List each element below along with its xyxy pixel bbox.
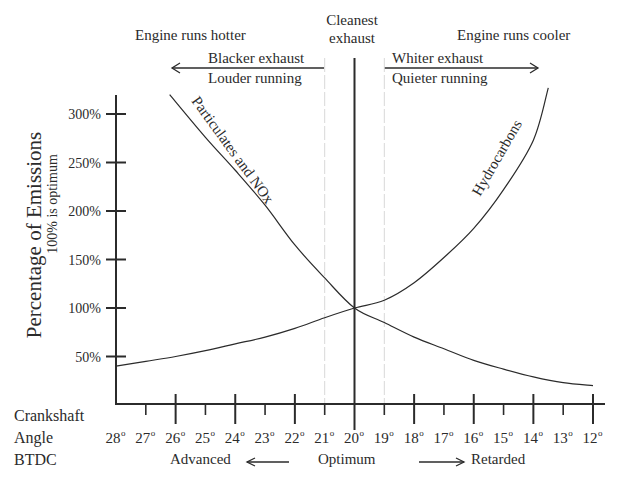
- x-tick-label: 21: [314, 430, 329, 446]
- x-tick-label: 20: [344, 430, 359, 446]
- annotation-louder-running: Louder running: [208, 70, 302, 86]
- x-tick-label: 25: [195, 430, 210, 446]
- x-tick-label: 19: [374, 430, 389, 446]
- x-tick-label: 17: [433, 430, 449, 446]
- annotation-optimum: Optimum: [318, 451, 376, 467]
- x-tick-degree: o: [270, 428, 275, 438]
- series-label-particulates-nox: Particulates and NOx: [189, 93, 278, 207]
- y-axis-label: Percentage of Emissions: [22, 132, 46, 338]
- x-tick-label: 23: [255, 430, 270, 446]
- x-tick-label: 16: [463, 430, 479, 446]
- series-line-hydrocarbons: [116, 88, 548, 366]
- x-tick-degree: o: [598, 428, 603, 438]
- emissions-chart: Engine runs hotter Cleanest exhaust Engi…: [0, 0, 625, 495]
- y-tick-label: 250%: [68, 156, 101, 171]
- x-tick-degree: o: [389, 428, 394, 438]
- y-tick-label: 300%: [68, 107, 101, 122]
- x-tick-degree: o: [509, 428, 514, 438]
- x-axis-label-btdc: BTDC: [14, 451, 57, 468]
- annotation-whiter-exhaust: Whiter exhaust: [392, 50, 484, 66]
- annotation-cleanest-line1: Cleanest: [326, 12, 378, 28]
- annotation-engine-hotter: Engine runs hotter: [135, 27, 246, 43]
- x-tick-degree: o: [568, 428, 573, 438]
- x-tick-degree: o: [479, 428, 484, 438]
- x-tick-label: 28: [106, 430, 121, 446]
- x-tick-degree: o: [151, 428, 156, 438]
- annotation-blacker-exhaust: Blacker exhaust: [208, 50, 305, 66]
- x-tick-label: 12: [583, 430, 598, 446]
- annotation-engine-cooler: Engine runs cooler: [457, 27, 570, 43]
- x-tick-degree: o: [419, 428, 424, 438]
- x-tick-degree: o: [538, 428, 543, 438]
- x-tick-degree: o: [210, 428, 215, 438]
- annotation-cleanest-line2: exhaust: [329, 30, 376, 46]
- x-tick-degree: o: [300, 428, 305, 438]
- annotation-advanced: Advanced: [170, 451, 231, 467]
- x-axis-label-angle: Angle: [14, 429, 53, 447]
- x-tick-degree: o: [360, 428, 365, 438]
- x-tick-degree: o: [330, 428, 335, 438]
- x-tick-degree: o: [240, 428, 245, 438]
- x-tick-label: 26: [165, 430, 181, 446]
- y-tick-label: 50%: [75, 350, 101, 365]
- x-tick-label: 14: [523, 430, 539, 446]
- x-tick-label: 27: [135, 430, 151, 446]
- x-axis-label-crankshaft: Crankshaft: [14, 407, 85, 424]
- annotation-quieter-running: Quieter running: [392, 70, 488, 86]
- x-tick-degree: o: [121, 428, 126, 438]
- y-tick-label: 200%: [68, 204, 101, 219]
- y-tick-label: 100%: [68, 301, 101, 316]
- x-tick-degree: o: [181, 428, 186, 438]
- advanced-arrow: [247, 458, 289, 466]
- series-label-hydrocarbons: Hydrocarbons: [469, 117, 525, 199]
- y-axis-sublabel: 100% is optimum: [45, 154, 60, 254]
- retarded-arrow: [419, 458, 464, 466]
- x-tick-label: 15: [493, 430, 508, 446]
- x-tick-degree: o: [449, 428, 454, 438]
- y-tick-label: 150%: [68, 253, 101, 268]
- annotation-retarded: Retarded: [471, 451, 526, 467]
- x-tick-label: 24: [225, 430, 241, 446]
- x-tick-label: 13: [553, 430, 568, 446]
- x-tick-label: 22: [284, 430, 299, 446]
- x-tick-label: 18: [404, 430, 419, 446]
